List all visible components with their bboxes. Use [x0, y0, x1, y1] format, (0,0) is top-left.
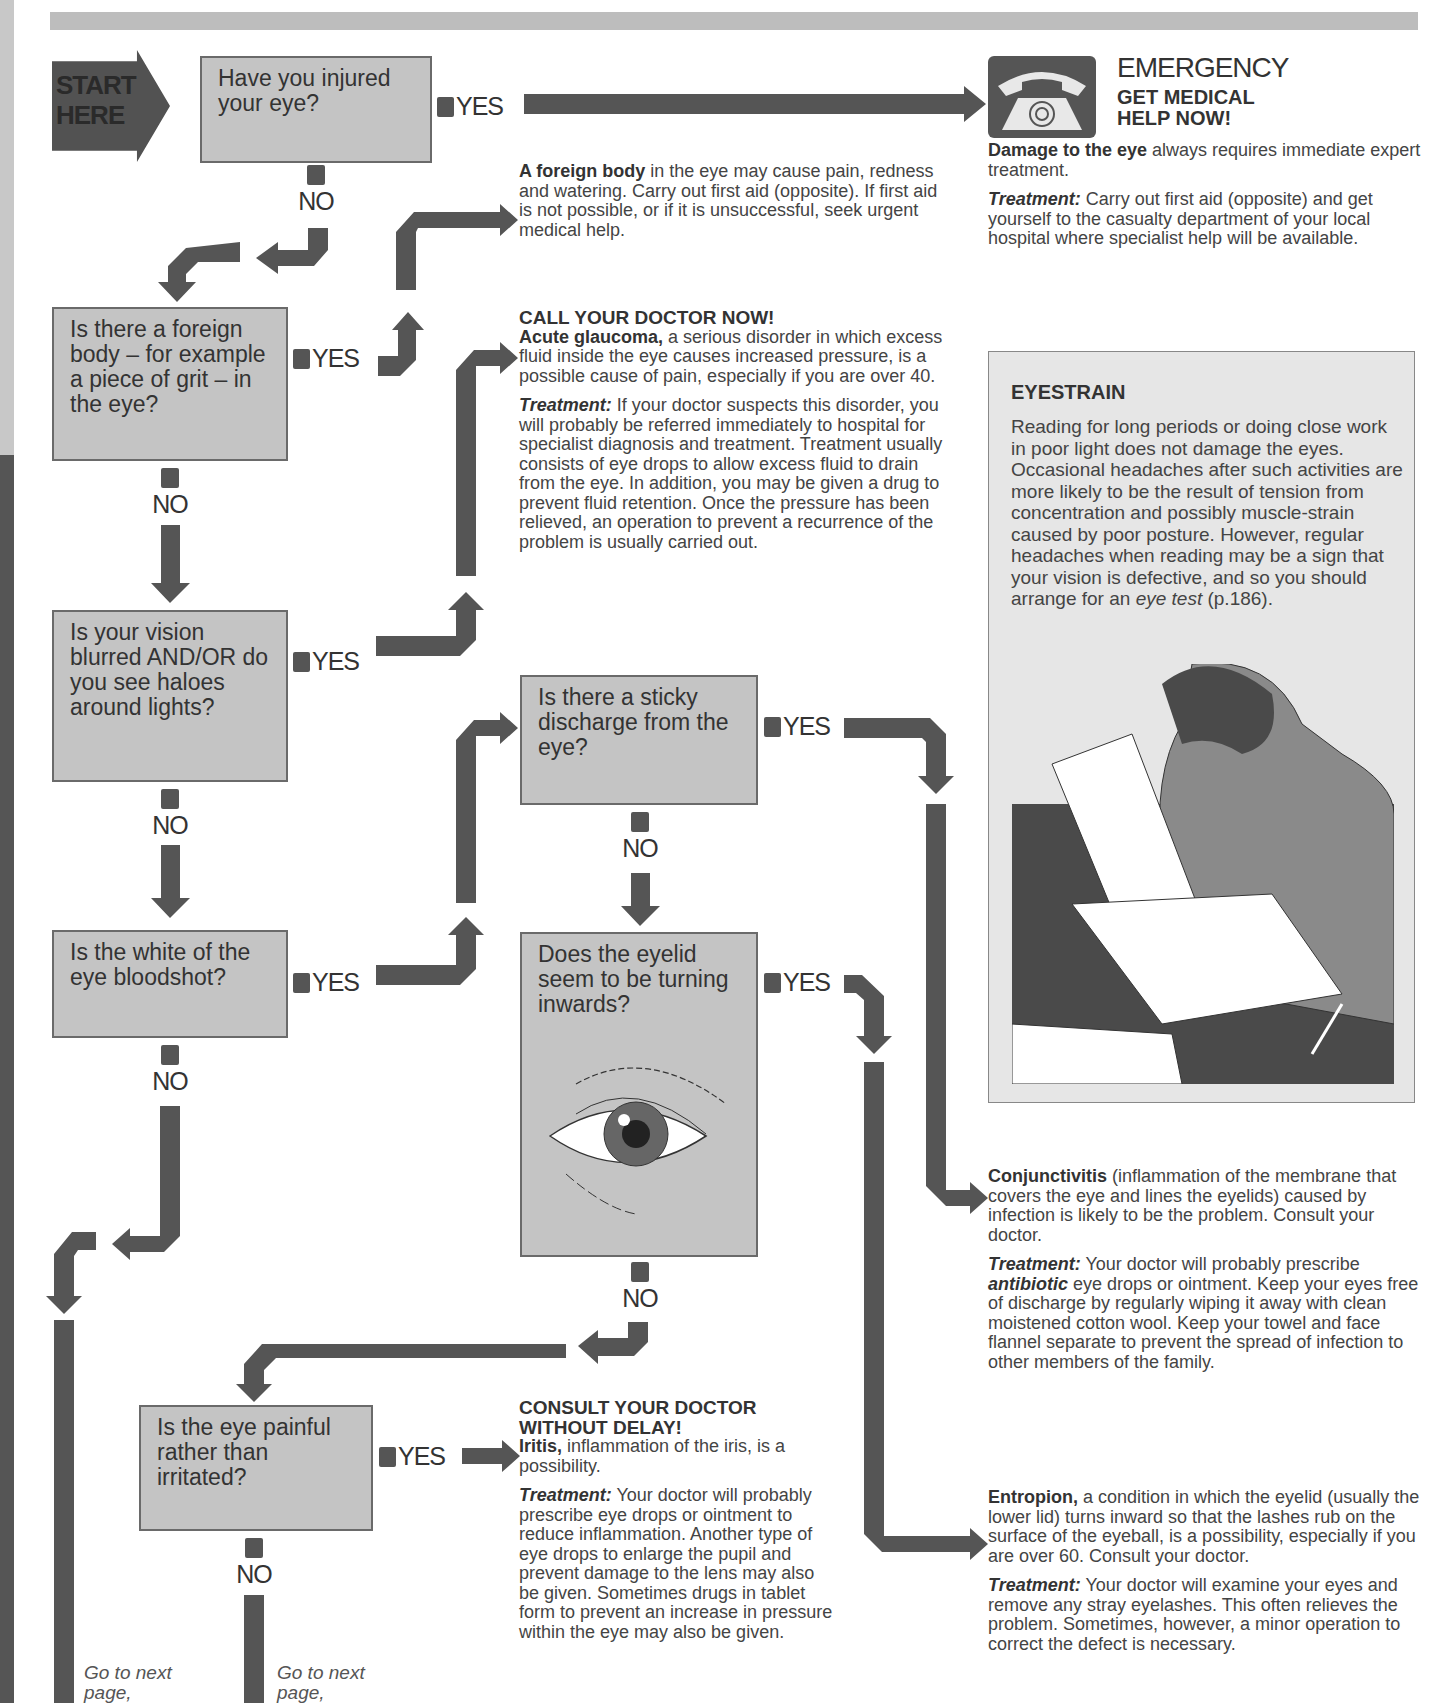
eyestrain-body: Reading for long periods or doing close … [1011, 416, 1406, 610]
arrow-q5-no [621, 873, 660, 926]
telephone-icon [988, 56, 1096, 138]
arrow-q6-no [578, 1322, 648, 1364]
question-painful-eye[interactable]: Is the eye painful rather than irritated… [139, 1405, 373, 1531]
arrow-q4-no-continue [54, 1320, 74, 1703]
arrow-q7-no [244, 1595, 264, 1703]
yes-label-q1: YES [437, 92, 503, 121]
no-label-q6: NO [620, 1262, 660, 1313]
emergency-title: EMERGENCY [1117, 52, 1288, 84]
man-reading-illustration [1012, 664, 1394, 1084]
question-injured-eye[interactable]: Have you injured your eye? [200, 56, 432, 163]
question-sticky-discharge[interactable]: Is there a sticky discharge from the eye… [520, 675, 758, 805]
yes-label-q4: YES [293, 968, 359, 997]
no-label-q7: NO [234, 1538, 274, 1589]
question-foreign-body[interactable]: Is there a foreign body – for example a … [52, 307, 288, 461]
question-eyelid-inwards[interactable]: Does the eyelid seem to be turning inwar… [520, 932, 758, 1257]
no-label-q1: NO [296, 165, 336, 216]
no-label-q5: NO [620, 812, 660, 863]
eye-test-link[interactable]: eye test [1136, 588, 1203, 609]
yes-label-q7: YES [379, 1442, 445, 1471]
arrow-q4-yes [376, 917, 484, 985]
iritis-description: CONSULT YOUR DOCTOR WITHOUT DELAY! Iriti… [519, 1398, 839, 1652]
yes-label-q3: YES [293, 647, 359, 676]
arrow-q2-yes [378, 312, 424, 376]
arrow-q5-yes [844, 718, 954, 794]
start-label: START HERE [56, 70, 136, 130]
eye-illustration [536, 1044, 746, 1244]
no-label-q2: NO [150, 468, 190, 519]
eyestrain-title: EYESTRAIN [1011, 381, 1125, 404]
no-label-q4: NO [150, 1045, 190, 1096]
arrow-q7-yes [462, 1440, 520, 1472]
arrow-q3-no [151, 845, 190, 918]
goto-next-page-right[interactable]: Go to nextpage, [277, 1663, 365, 1703]
goto-next-page-left[interactable]: Go to nextpage, [84, 1663, 172, 1703]
arrow-q6-yes [844, 975, 892, 1054]
glaucoma-description: CALL YOUR DOCTOR NOW! Acute glaucoma, a … [519, 308, 949, 562]
conjunctivitis-description: Conjunctivitis (inflammation of the memb… [988, 1167, 1428, 1382]
no-label-q3: NO [150, 789, 190, 840]
arrow-q4-no [112, 1106, 180, 1260]
question-blurred-vision[interactable]: Is your vision blurred AND/OR do you see… [52, 610, 288, 782]
question-bloodshot[interactable]: Is the white of the eye bloodshot? [52, 930, 288, 1038]
arrow-q1-yes [524, 86, 986, 122]
arrow-q2-no [151, 525, 190, 603]
entropion-description: Entropion, a condition in which the eyel… [988, 1488, 1428, 1664]
yes-label-q5: YES [764, 712, 830, 741]
foreign-body-description: A foreign body in the eye may cause pain… [519, 162, 949, 250]
emergency-description: Damage to the eye always requires immedi… [988, 141, 1428, 259]
emergency-subtitle: GET MEDICAL HELP NOW! [1117, 87, 1255, 129]
yes-label-q6: YES [764, 968, 830, 997]
yes-label-q2: YES [293, 344, 359, 373]
arrow-q3-yes [376, 592, 484, 656]
arrow-q1-no [256, 228, 328, 274]
